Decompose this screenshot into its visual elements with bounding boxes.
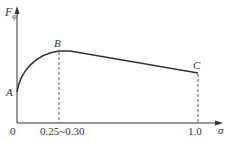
tick-label-c: 1.0 — [188, 125, 202, 137]
curve-a-b — [17, 51, 59, 92]
tick-label-b: 0.25~0.30 — [40, 125, 85, 137]
point-label-c: C — [193, 59, 201, 71]
point-label-b: B — [54, 37, 61, 49]
y-axis-label: Fφ — [4, 5, 17, 21]
diagram-canvas: Fφ σ 0 0.25~0.30 1.0 A B C — [0, 0, 234, 142]
point-label-a: A — [5, 86, 13, 98]
origin-label: 0 — [10, 125, 16, 137]
x-axis-label: σ — [218, 124, 224, 136]
line-b-c — [59, 51, 198, 73]
